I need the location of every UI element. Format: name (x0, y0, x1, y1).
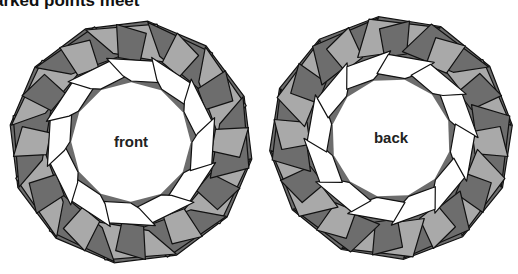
back-label: back (374, 129, 409, 146)
front-label: front (114, 133, 148, 150)
origami-diagram: front back (0, 0, 518, 274)
